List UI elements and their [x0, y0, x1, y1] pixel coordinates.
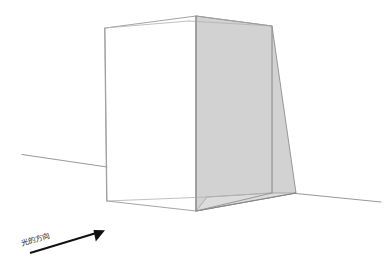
box-front-left-face [105, 16, 196, 211]
light-direction-label: 光的方向 [20, 230, 51, 248]
light-direction-arrow-head [94, 230, 106, 242]
cast-shadow [196, 16, 296, 211]
ground-line-right-segment [296, 194, 381, 203]
ground-line-left-segment [22, 155, 107, 168]
light-and-shadow-diagram: 光的方向 [0, 0, 390, 277]
cast-shadow-main-face [196, 16, 296, 211]
